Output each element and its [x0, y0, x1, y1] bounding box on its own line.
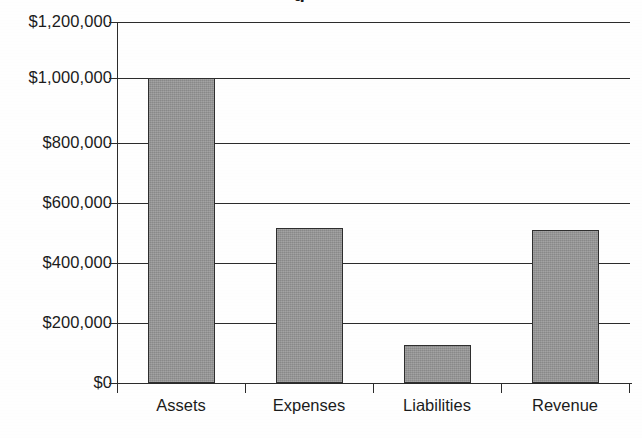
- x-axis-tick-mark: [117, 383, 118, 393]
- chart-title-fragment: g: [288, 0, 310, 2]
- y-axis-tick-label: $1,200,000: [4, 12, 112, 31]
- bar-revenue: [532, 230, 599, 383]
- bar-liabilities: [404, 345, 471, 384]
- x-axis-tick-mark: [501, 383, 502, 393]
- y-axis-tick-label: $0: [4, 373, 112, 392]
- y-axis-tick-label: $600,000: [4, 193, 112, 212]
- chart-page: g $1,200,000 $1,000,000 $800,000 $600,00…: [0, 0, 642, 438]
- y-axis-label-group: $1,200,000 $1,000,000 $800,000 $600,000 …: [0, 0, 112, 438]
- y-axis-tick-label: $800,000: [4, 133, 112, 152]
- plot-area: [117, 22, 630, 383]
- x-axis-tick-mark: [373, 383, 374, 393]
- x-axis-line: [109, 383, 632, 384]
- x-axis-tick-label-expenses: Expenses: [245, 396, 373, 415]
- y-axis-tick-label: $200,000: [4, 313, 112, 332]
- x-axis-tick-label-liabilities: Liabilities: [373, 396, 501, 415]
- x-axis-tick-mark: [629, 383, 630, 393]
- bar-expenses: [276, 228, 343, 383]
- y-axis-tick-label: $400,000: [4, 253, 112, 272]
- x-axis-tick-mark: [245, 383, 246, 393]
- gridline: [117, 22, 630, 23]
- bar-assets: [148, 78, 215, 383]
- x-axis-tick-label-assets: Assets: [117, 396, 245, 415]
- x-axis-tick-label-revenue: Revenue: [501, 396, 629, 415]
- y-axis-tick-label: $1,000,000: [4, 68, 112, 87]
